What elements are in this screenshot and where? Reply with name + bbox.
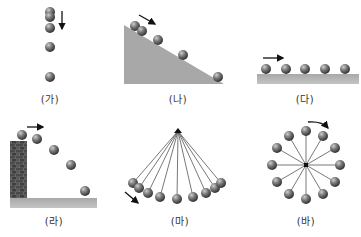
panel-ba: [267, 122, 345, 204]
ball: [66, 160, 76, 170]
ball: [330, 177, 340, 187]
arrow-down-right-icon: [139, 15, 155, 24]
ball: [172, 194, 182, 204]
panel-ma: [125, 128, 226, 204]
ball: [155, 192, 165, 202]
ball: [178, 50, 188, 60]
ball: [17, 130, 27, 140]
panel-label-ba: (바): [297, 213, 315, 228]
panel-da: [257, 58, 359, 84]
ball: [281, 64, 291, 74]
ball: [301, 194, 311, 204]
ball: [45, 42, 55, 52]
brick-wall: [10, 141, 27, 198]
ball: [49, 145, 59, 155]
panel-label-ma: (마): [171, 213, 189, 228]
arrow-clockwise-icon: [308, 122, 328, 128]
ball: [272, 143, 282, 153]
ball: [261, 64, 271, 74]
ball: [320, 64, 330, 74]
ball: [188, 192, 198, 202]
panel-ga: [45, 7, 62, 82]
ball: [213, 72, 223, 82]
ball: [32, 134, 42, 144]
ball: [153, 35, 163, 45]
ball: [137, 26, 147, 36]
ground: [10, 198, 97, 208]
ball: [216, 178, 226, 188]
ball: [318, 189, 328, 199]
ball: [45, 12, 55, 22]
panel-label-ra: (라): [45, 213, 63, 228]
arrow-down-right-icon: [125, 192, 138, 203]
ball: [45, 23, 55, 33]
ball: [272, 177, 282, 187]
ball: [201, 188, 211, 198]
ball: [330, 143, 340, 153]
ball: [301, 126, 311, 136]
ball: [335, 160, 345, 170]
ball: [80, 186, 90, 196]
motion-diagrams: [0, 0, 361, 237]
ball: [134, 183, 144, 193]
panel-na: [124, 15, 224, 84]
ball: [284, 131, 294, 141]
center-hub: [304, 163, 308, 167]
panel-label-da: (다): [296, 91, 314, 106]
panel-label-ga: (가): [41, 91, 59, 106]
pivot: [174, 128, 182, 133]
ball: [318, 131, 328, 141]
panel-ra: [10, 127, 97, 208]
ball: [143, 188, 153, 198]
ball: [284, 189, 294, 199]
ground: [257, 74, 359, 84]
ball: [300, 64, 310, 74]
ball: [340, 64, 350, 74]
ball: [45, 72, 55, 82]
ball: [267, 160, 277, 170]
panel-label-na: (나): [169, 91, 187, 106]
